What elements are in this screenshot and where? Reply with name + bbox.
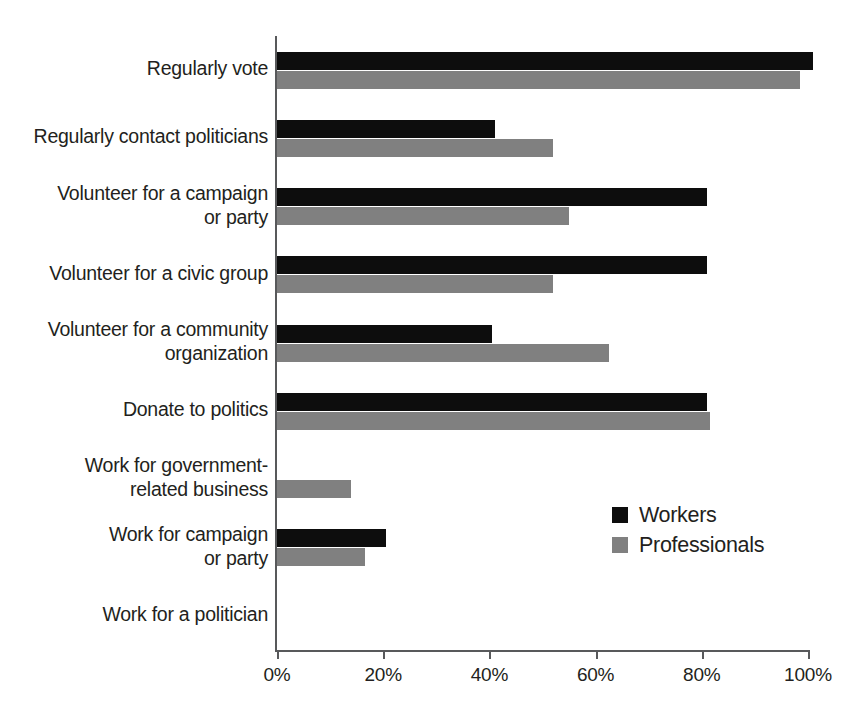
category-label: Volunteer for a campaignor party — [6, 181, 268, 229]
legend-label: Professionals — [639, 533, 764, 558]
bar-professionals — [277, 480, 351, 498]
x-tick — [277, 650, 279, 659]
bar-professionals — [277, 207, 569, 225]
chart-legend: WorkersProfessionals — [612, 500, 764, 560]
bar-workers — [277, 256, 707, 274]
x-tick-label: 60% — [577, 664, 614, 686]
legend-item-workers: Workers — [612, 500, 764, 530]
x-tick — [808, 650, 810, 659]
bar-professionals — [277, 412, 710, 430]
x-axis-line — [275, 650, 808, 652]
x-tick-label: 100% — [784, 664, 832, 686]
bar-workers — [277, 120, 495, 138]
bar-group — [277, 256, 808, 296]
bar-workers — [277, 325, 492, 343]
category-label: Work for campaignor party — [6, 522, 268, 570]
category-label: Donate to politics — [6, 397, 268, 421]
bar-chart: Regularly voteRegularly contact politici… — [0, 0, 862, 726]
category-label: Volunteer for a civic group — [6, 261, 268, 285]
category-label: Volunteer for a communityorganization — [6, 317, 268, 365]
bar-workers — [277, 52, 813, 70]
bar-group — [277, 120, 808, 160]
bar-professionals — [277, 275, 553, 293]
legend-swatch-professionals — [612, 537, 628, 553]
bar-professionals — [277, 71, 800, 89]
bar-professionals — [277, 548, 365, 566]
bar-group — [277, 461, 808, 501]
bar-workers — [277, 529, 386, 547]
legend-item-professionals: Professionals — [612, 530, 764, 560]
legend-label: Workers — [639, 503, 717, 528]
x-tick — [383, 650, 385, 659]
bar-group — [277, 325, 808, 365]
bar-professionals — [277, 344, 609, 362]
x-tick-label: 80% — [683, 664, 720, 686]
bar-workers — [277, 393, 707, 411]
x-tick-label: 40% — [471, 664, 508, 686]
x-tick-label: 20% — [364, 664, 401, 686]
bar-professionals — [277, 139, 553, 157]
category-label: Work for government-related business — [6, 453, 268, 501]
bar-group — [277, 52, 808, 92]
x-tick — [702, 650, 704, 659]
x-tick — [596, 650, 598, 659]
bar-group — [277, 188, 808, 228]
x-tick — [489, 650, 491, 659]
bar-workers — [277, 188, 707, 206]
legend-swatch-workers — [612, 507, 628, 523]
category-label: Regularly contact politicians — [6, 124, 268, 148]
y-axis-category-labels: Regularly voteRegularly contact politici… — [0, 36, 268, 650]
x-tick-label: 0% — [263, 664, 290, 686]
category-label: Regularly vote — [6, 56, 268, 80]
category-label: Work for a politician — [6, 602, 268, 626]
bar-group — [277, 393, 808, 433]
bar-group — [277, 597, 808, 637]
